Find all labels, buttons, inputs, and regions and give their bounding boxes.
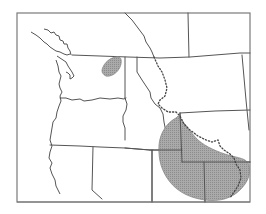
range-map xyxy=(0,0,266,214)
map-canvas xyxy=(0,0,266,214)
